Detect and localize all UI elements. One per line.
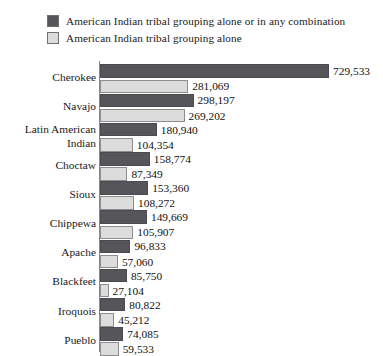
bar-combination[interactable]: 85,750 xyxy=(100,269,383,283)
bar-value-label: 149,669 xyxy=(147,211,188,223)
chart-row: Cherokee729,533281,069 xyxy=(0,61,383,90)
category-label: Sioux xyxy=(0,188,96,201)
light-swatch-icon xyxy=(47,32,59,44)
bar-value-label: 158,774 xyxy=(150,153,191,165)
category-label: Pueblo xyxy=(0,334,96,347)
category-label: Iroquois xyxy=(0,305,96,318)
bar-value-label: 180,940 xyxy=(157,124,198,136)
category-label: Cherokee xyxy=(0,71,96,84)
bar-fill-combination xyxy=(100,181,148,195)
plot-area: Cherokee729,533281,069Navajo298,197269,2… xyxy=(0,61,383,352)
dark-swatch-icon xyxy=(47,15,59,27)
bar-alone[interactable]: 59,533 xyxy=(100,342,383,356)
bar-combination[interactable]: 298,197 xyxy=(100,94,383,108)
category-label: Choctaw xyxy=(0,159,96,172)
bar-fill-combination xyxy=(100,210,147,224)
bar-group: 158,77487,349 xyxy=(100,149,383,178)
category-label: Apache xyxy=(0,246,96,259)
bar-fill-combination xyxy=(100,64,329,78)
bar-combination[interactable]: 96,833 xyxy=(100,240,383,254)
bar-combination[interactable]: 149,669 xyxy=(100,210,383,224)
bar-fill-combination xyxy=(100,298,125,312)
chart-row: Choctaw158,77487,349 xyxy=(0,149,383,178)
bar-value-label: 96,833 xyxy=(130,240,165,252)
chart-row: Chippewa149,669105,907 xyxy=(0,207,383,236)
category-label: Blackfeet xyxy=(0,275,96,288)
bar-group: 180,940104,354 xyxy=(100,119,383,148)
bar-value-label: 298,197 xyxy=(194,94,235,106)
category-label: Navajo xyxy=(0,100,96,113)
bar-fill-combination xyxy=(100,269,127,283)
chart-row: Apache96,83357,060 xyxy=(0,236,383,265)
bar-group: 149,669105,907 xyxy=(100,207,383,236)
category-label: Chippewa xyxy=(0,217,96,230)
bar-group: 153,360108,272 xyxy=(100,178,383,207)
bar-fill-combination xyxy=(100,123,157,137)
chart-legend: American Indian tribal grouping alone or… xyxy=(47,13,345,47)
bar-rows: Cherokee729,533281,069Navajo298,197269,2… xyxy=(0,61,383,353)
chart-row: Latin American Indian180,940104,354 xyxy=(0,119,383,148)
bar-group: 96,83357,060 xyxy=(100,236,383,265)
legend-item-alone: American Indian tribal grouping alone xyxy=(47,30,345,46)
chart-row: Sioux153,360108,272 xyxy=(0,178,383,207)
bar-fill-combination xyxy=(100,240,130,254)
legend-label-combination: American Indian tribal grouping alone or… xyxy=(66,15,345,27)
bar-group: 74,08559,533 xyxy=(100,324,383,353)
bar-combination[interactable]: 74,085 xyxy=(100,327,383,341)
bar-value-label: 729,533 xyxy=(329,65,370,77)
bar-combination[interactable]: 158,774 xyxy=(100,152,383,166)
bar-fill-combination xyxy=(100,152,150,166)
bar-combination[interactable]: 80,822 xyxy=(100,298,383,312)
bar-group: 729,533281,069 xyxy=(100,61,383,90)
bar-fill-combination xyxy=(100,327,123,341)
bar-value-label: 80,822 xyxy=(125,299,160,311)
bar-combination[interactable]: 180,940 xyxy=(100,123,383,137)
chart-row: Pueblo74,08559,533 xyxy=(0,324,383,353)
bar-value-label: 85,750 xyxy=(127,270,162,282)
top-cropped-strip xyxy=(0,0,383,6)
legend-label-alone: American Indian tribal grouping alone xyxy=(66,32,242,44)
chart-row: Blackfeet85,75027,104 xyxy=(0,265,383,294)
bar-combination[interactable]: 729,533 xyxy=(100,64,383,78)
bar-group: 80,82245,212 xyxy=(100,295,383,324)
bar-value-label: 74,085 xyxy=(123,328,158,340)
bar-value-label: 59,533 xyxy=(119,343,154,355)
bar-fill-alone xyxy=(100,342,119,356)
bar-group: 85,75027,104 xyxy=(100,265,383,294)
chart-row: Navajo298,197269,202 xyxy=(0,90,383,119)
bar-combination[interactable]: 153,360 xyxy=(100,181,383,195)
bar-fill-combination xyxy=(100,94,194,108)
bar-group: 298,197269,202 xyxy=(100,90,383,119)
legend-item-combination: American Indian tribal grouping alone or… xyxy=(47,13,345,29)
bar-value-label: 153,360 xyxy=(148,182,189,194)
chart-row: Iroquois80,82245,212 xyxy=(0,295,383,324)
category-label: Latin American Indian xyxy=(0,123,96,149)
